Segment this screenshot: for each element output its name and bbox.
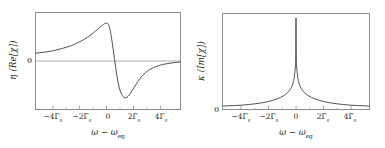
x-tick-zero-real: 0 [106, 112, 111, 121]
x-tick-marks-imag [222, 104, 370, 112]
y-axis-label-real-text: η (Re[χ]) [8, 40, 18, 79]
x-label-omega2-imag: ω [299, 127, 306, 137]
x-label-sub-imag: eg [306, 133, 313, 139]
x-tick-minus-4-real: −4Γs [44, 112, 63, 123]
curve-real-part [36, 23, 180, 98]
curve-imaginary-part [223, 18, 369, 106]
plot-frame-imag [222, 13, 370, 110]
x-tick-minus-2-real: −2Γs [73, 112, 92, 123]
x-label-omega2-real: ω [111, 127, 118, 137]
y-tick-zero-real: 0 [20, 56, 32, 65]
x-tick-plus-2-imag: 2Γs [317, 112, 330, 123]
plot-frame-real [35, 12, 181, 110]
y-axis-label-imag: κ (Im[χ]) [196, 31, 206, 91]
plot-area-real [36, 13, 180, 109]
x-tick-minus-4-imag: −4Γs [232, 112, 251, 123]
panel-real-part: η (Re[χ]) 0 −4Γs −2Γs 0 2Γs 4Γs ω − ωeg [0, 0, 192, 148]
y-tick-zero-imag: 0 [207, 105, 219, 114]
figure-susceptibility-plots: η (Re[χ]) 0 −4Γs −2Γs 0 2Γs 4Γs ω − ωeg [0, 0, 385, 148]
y-axis-label-imag-text: κ (Im[χ]) [196, 41, 206, 81]
x-label-minus-real: − [101, 127, 108, 137]
x-tick-plus-4-real: 4Γs [155, 112, 168, 123]
x-label-minus-imag: − [289, 127, 296, 137]
x-tick-minus-2-imag: −2Γs [260, 112, 279, 123]
plot-area-imag [223, 14, 369, 109]
x-tick-marks-real [35, 104, 181, 112]
x-tick-plus-4-imag: 4Γs [344, 112, 357, 123]
x-axis-label-real: ω − ωeg [35, 127, 181, 139]
x-axis-label-imag: ω − ωeg [222, 127, 370, 139]
panel-imaginary-part: κ (Im[χ]) 0 −4Γs −2Γs 0 2Γs 4Γs ω − ωeg [193, 0, 385, 148]
x-tick-plus-2-real: 2Γs [128, 112, 141, 123]
x-tick-zero-imag: 0 [294, 112, 299, 121]
y-axis-label-real: η (Re[χ]) [8, 30, 18, 90]
x-label-sub-real: eg [118, 133, 125, 139]
